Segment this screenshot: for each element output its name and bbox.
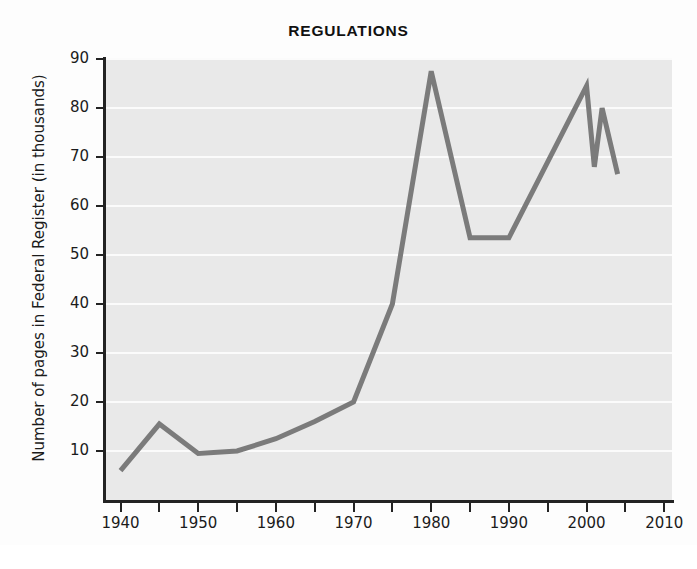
y-tick-label: 40 — [70, 296, 89, 311]
x-tick-label: 1990 — [474, 516, 544, 531]
y-tick-label: 70 — [70, 149, 89, 164]
data-series-layer — [105, 59, 672, 500]
x-tick-mark — [353, 502, 355, 512]
chart-title: REGULATIONS — [0, 22, 697, 40]
x-minor-tick-mark — [314, 502, 316, 512]
x-minor-tick-mark — [236, 502, 238, 512]
y-tick-label: 90 — [70, 51, 89, 66]
x-tick-mark — [663, 502, 665, 512]
x-tick-mark — [430, 502, 432, 512]
x-minor-tick-mark — [547, 502, 549, 512]
x-tick-mark — [586, 502, 588, 512]
y-tick-mark — [96, 401, 104, 403]
x-tick-mark — [120, 502, 122, 512]
y-tick-label: 60 — [70, 198, 89, 213]
y-tick-label: 20 — [70, 394, 89, 409]
y-tick-label: 80 — [70, 100, 89, 115]
y-tick-label: 30 — [70, 345, 89, 360]
scan-artifact — [0, 545, 697, 569]
x-tick-label: 1970 — [319, 516, 389, 531]
chart-figure: REGULATIONS Number of pages in Federal R… — [0, 0, 697, 569]
x-tick-label: 2000 — [552, 516, 622, 531]
x-tick-mark — [508, 502, 510, 512]
x-tick-label: 1950 — [163, 516, 233, 531]
x-tick-label: 1940 — [86, 516, 156, 531]
y-axis-title: Number of pages in Federal Register (in … — [30, 48, 48, 488]
x-tick-label: 1960 — [241, 516, 311, 531]
line-series-federal-register-pages — [121, 71, 618, 470]
y-tick-mark — [96, 58, 104, 60]
x-minor-tick-mark — [469, 502, 471, 512]
x-tick-mark — [275, 502, 277, 512]
y-tick-mark — [96, 352, 104, 354]
x-minor-tick-mark — [158, 502, 160, 512]
x-tick-mark — [197, 502, 199, 512]
y-tick-mark — [96, 205, 104, 207]
x-minor-tick-mark — [391, 502, 393, 512]
y-tick-label: 10 — [70, 443, 89, 458]
x-tick-label: 2010 — [629, 516, 697, 531]
x-minor-tick-mark — [624, 502, 626, 512]
y-tick-mark — [96, 254, 104, 256]
x-axis-spine — [103, 500, 674, 503]
x-tick-label: 1980 — [396, 516, 466, 531]
y-tick-mark — [96, 107, 104, 109]
y-tick-label: 50 — [70, 247, 89, 262]
y-tick-mark — [96, 156, 104, 158]
y-tick-mark — [96, 450, 104, 452]
y-tick-mark — [96, 303, 104, 305]
